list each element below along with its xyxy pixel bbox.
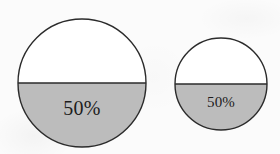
left-circle <box>18 19 146 147</box>
right-circle-top-half-unshaded <box>175 38 267 84</box>
left-circle-top-half-unshaded <box>18 19 146 83</box>
figure-canvas: 50% 50% <box>0 0 280 154</box>
circles-vector-group <box>0 0 280 154</box>
right-circle <box>175 38 267 130</box>
left-circle-percent-label: 50% <box>30 97 134 119</box>
right-circle-percent-label: 50% <box>180 94 262 111</box>
